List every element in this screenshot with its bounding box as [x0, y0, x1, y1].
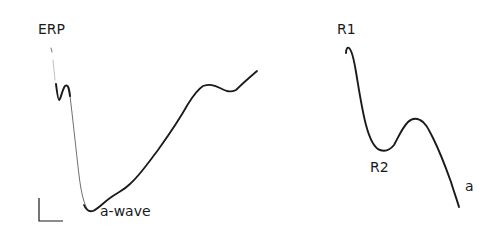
left-trace: [51, 48, 257, 211]
erg-waveform-figure: ERP a-wave R1 R2 a: [0, 0, 504, 234]
right-trace: [346, 48, 459, 207]
waveform-traces: [0, 0, 504, 234]
erp-label: ERP: [38, 22, 65, 36]
a-label: a: [465, 179, 474, 193]
r2-label: R2: [370, 160, 389, 174]
scale-bar: [39, 198, 63, 221]
r1-label: R1: [337, 22, 356, 36]
a-wave-label: a-wave: [100, 204, 151, 218]
